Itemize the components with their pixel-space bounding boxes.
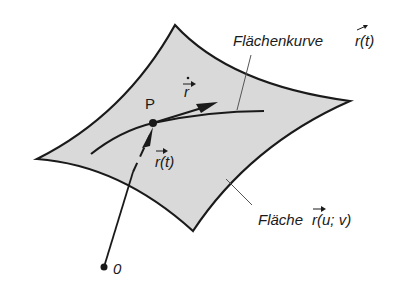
position-vector-hidden: [104, 172, 133, 267]
curve-label: Flächenkurve: [233, 32, 323, 49]
derivative-dot-icon: [187, 77, 190, 80]
position-vector-text: r(t): [155, 153, 174, 170]
curve-vector-label: r(t): [355, 25, 374, 49]
point-p: [149, 119, 157, 127]
surface-vector-label: r(u; v): [312, 206, 351, 228]
point-p-label: P: [145, 95, 155, 112]
origin-point: [101, 264, 108, 271]
origin-label: 0: [113, 260, 122, 277]
surface-curve-diagram: Flächenkurve r(t) Fläche r(u; v) P r(t) …: [0, 0, 416, 292]
surface-patch: [37, 25, 350, 231]
surface-leader-line: [226, 179, 252, 205]
curve-vector-text: r(t): [355, 32, 374, 49]
surface-label: Fläche: [258, 211, 303, 228]
surface-vector-text: r(u; v): [312, 211, 351, 228]
